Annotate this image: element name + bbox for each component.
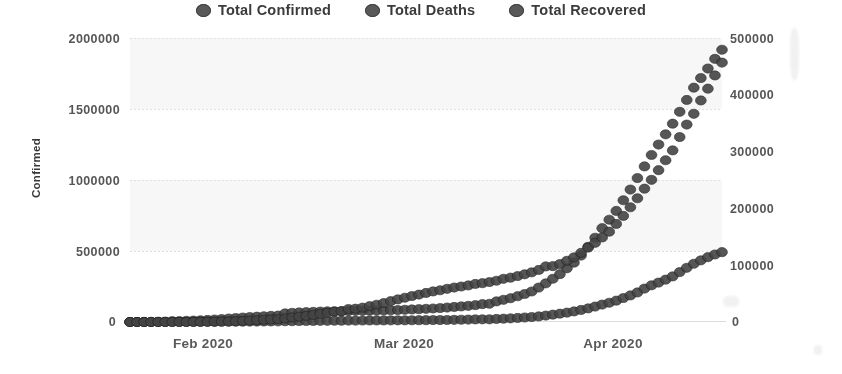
legend-item-total-confirmed[interactable]: Total Confirmed (196, 2, 331, 18)
series-total-confirmed (125, 45, 728, 326)
circle-marker-icon (196, 4, 211, 17)
y-axis-left-ticks: 2000000 1500000 1000000 500000 0 (0, 38, 122, 322)
y-tick-left: 0 (109, 315, 116, 329)
legend-label-total-deaths: Total Deaths (387, 2, 475, 18)
scan-artifact (814, 345, 822, 355)
x-tick-mar: Mar 2020 (374, 336, 434, 351)
circle-marker-icon (365, 4, 380, 17)
y-tick-left: 2000000 (69, 32, 120, 46)
y-axis-left-title: Confirmed (30, 138, 42, 198)
y-tick-right: 500000 (730, 32, 774, 46)
plot-area (130, 38, 722, 322)
series-total-recovered (125, 58, 728, 327)
chart-legend: Total Confirmed Total Deaths Total Recov… (0, 2, 842, 18)
scan-artifact (723, 296, 739, 307)
legend-item-total-deaths[interactable]: Total Deaths (365, 2, 475, 18)
x-tick-apr: Apr 2020 (583, 336, 642, 351)
legend-label-total-recovered: Total Recovered (531, 2, 646, 18)
series-layer (130, 38, 722, 322)
legend-label-total-confirmed: Total Confirmed (218, 2, 331, 18)
y-tick-left: 1000000 (69, 174, 120, 188)
y-tick-right: 400000 (730, 88, 774, 102)
y-tick-right: 100000 (730, 259, 774, 273)
scan-artifact (790, 28, 799, 80)
y-tick-right: 0 (732, 315, 739, 329)
chart-figure: Total Confirmed Total Deaths Total Recov… (0, 0, 842, 374)
y-axis-right-ticks: 500000 400000 300000 200000 100000 0 (730, 38, 810, 322)
y-tick-left: 1500000 (69, 103, 120, 117)
legend-item-total-recovered[interactable]: Total Recovered (509, 2, 646, 18)
y-tick-right: 200000 (730, 202, 774, 216)
y-tick-left: 500000 (76, 245, 120, 259)
y-tick-right: 300000 (730, 145, 774, 159)
x-tick-feb: Feb 2020 (173, 336, 233, 351)
circle-marker-icon (509, 4, 524, 17)
